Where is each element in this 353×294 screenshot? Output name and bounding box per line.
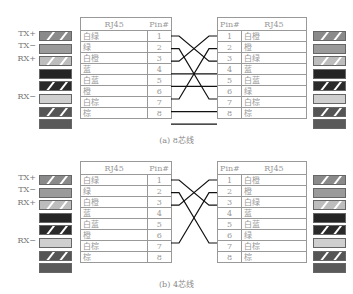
pin-number: 1 bbox=[147, 31, 171, 42]
left-pin-table: RJ45Pin# 白绿1 绿2 白橙3 蓝4 白蓝5 橙6 白棕7 棕8 bbox=[80, 161, 172, 263]
signal-label: TX− bbox=[0, 185, 36, 194]
wire-color: 白绿 bbox=[242, 197, 307, 208]
pin-number: 5 bbox=[147, 219, 171, 230]
wire-color: 白蓝 bbox=[242, 219, 307, 230]
wire-color-swatch bbox=[313, 81, 346, 91]
pin-number: 2 bbox=[218, 186, 242, 197]
wire-color-swatch bbox=[39, 238, 72, 248]
wire-color-swatch bbox=[313, 238, 346, 248]
signal-label: TX+ bbox=[0, 29, 36, 38]
wire-color-swatch bbox=[313, 213, 346, 223]
wire-color-swatch bbox=[313, 188, 346, 198]
pin-number: 3 bbox=[147, 53, 171, 64]
wire-color: 绿 bbox=[242, 86, 307, 97]
right-pin-table: Pin#RJ45 1白橙 2橙 3白绿 4蓝 5白蓝 6绿 7白棕 8棕 bbox=[217, 17, 307, 119]
crossover-wires bbox=[171, 0, 221, 147]
wire-color: 白绿 bbox=[81, 31, 148, 42]
wire-color: 棕 bbox=[242, 252, 307, 263]
wire-color: 白绿 bbox=[81, 175, 148, 186]
wire-color-swatch bbox=[313, 225, 346, 235]
left-pin-table: RJ45Pin# 白绿1 绿2 白橙3 蓝4 白蓝5 橙6 白棕7 棕8 bbox=[80, 17, 172, 119]
wire-color: 白橙 bbox=[81, 53, 148, 64]
wire bbox=[171, 193, 217, 243]
wire-color: 蓝 bbox=[242, 64, 307, 75]
pin-number: 8 bbox=[147, 252, 171, 263]
wire-color: 橙 bbox=[242, 42, 307, 53]
pin-number: 8 bbox=[218, 252, 242, 263]
wire-color: 蓝 bbox=[242, 208, 307, 219]
pin-number: 6 bbox=[147, 86, 171, 97]
wire-color: 白橙 bbox=[81, 197, 148, 208]
wire-color: 白绿 bbox=[242, 53, 307, 64]
header-pin: Pin# bbox=[147, 162, 171, 175]
header-rj45: RJ45 bbox=[242, 18, 307, 31]
wire-color: 绿 bbox=[242, 230, 307, 241]
pin-number: 4 bbox=[147, 64, 171, 75]
wire-color-swatch bbox=[313, 251, 346, 261]
wire-color: 绿 bbox=[81, 186, 148, 197]
diagram-8-core: TX+ TX− RX+ RX− RJ45Pin# 白绿1 绿2 白橙3 蓝4 白… bbox=[0, 0, 353, 147]
pin-number: 5 bbox=[147, 75, 171, 86]
wire-color: 棕 bbox=[81, 252, 148, 263]
wire-color-swatch bbox=[313, 56, 346, 66]
wire-color-swatch bbox=[313, 94, 346, 104]
pin-number: 3 bbox=[147, 197, 171, 208]
wire-color-swatch bbox=[39, 44, 72, 54]
pin-number: 1 bbox=[218, 31, 242, 42]
wire-color: 蓝 bbox=[81, 64, 148, 75]
wire-color-swatch bbox=[39, 56, 72, 66]
wire-color: 白蓝 bbox=[81, 75, 148, 86]
wire-color: 绿 bbox=[81, 42, 148, 53]
wire-color: 白橙 bbox=[242, 31, 307, 42]
header-rj45: RJ45 bbox=[81, 162, 148, 175]
signal-label: RX− bbox=[0, 236, 36, 245]
wire-color-swatch bbox=[313, 119, 346, 129]
wire-color-swatch bbox=[39, 119, 72, 129]
pin-number: 4 bbox=[218, 64, 242, 75]
wire-color-swatch bbox=[39, 200, 72, 210]
signal-label: RX− bbox=[0, 92, 36, 101]
pin-number: 4 bbox=[147, 208, 171, 219]
wire-color-swatch bbox=[39, 94, 72, 104]
pin-number: 2 bbox=[147, 42, 171, 53]
diagram-4-core: TX+ TX− RX+ RX− RJ45Pin# 白绿1 绿2 白橙3 蓝4 白… bbox=[0, 147, 353, 294]
pin-number: 2 bbox=[218, 42, 242, 53]
pin-number: 5 bbox=[218, 219, 242, 230]
wire-color: 白蓝 bbox=[242, 75, 307, 86]
wire-color: 白蓝 bbox=[81, 219, 148, 230]
pin-number: 7 bbox=[218, 97, 242, 108]
wire-color-swatch bbox=[39, 31, 72, 41]
pin-number: 3 bbox=[218, 53, 242, 64]
header-rj45: RJ45 bbox=[81, 18, 148, 31]
right-pin-table: Pin#RJ45 1白橙 2橙 3白绿 4蓝 5白蓝 6绿 7白棕 8棕 bbox=[217, 161, 307, 263]
pin-number: 6 bbox=[218, 230, 242, 241]
wire-color-swatch bbox=[39, 213, 72, 223]
crossover-wires bbox=[171, 147, 221, 294]
signal-label: RX+ bbox=[0, 198, 36, 207]
wire-color: 白棕 bbox=[242, 241, 307, 252]
wire-color-swatch bbox=[313, 31, 346, 41]
pin-number: 1 bbox=[147, 175, 171, 186]
pin-number: 5 bbox=[218, 75, 242, 86]
wire-color-swatch bbox=[313, 200, 346, 210]
pin-number: 6 bbox=[147, 230, 171, 241]
signal-label: RX+ bbox=[0, 54, 36, 63]
wire-color: 橙 bbox=[242, 186, 307, 197]
wire-color-swatch bbox=[39, 107, 72, 117]
header-pin: Pin# bbox=[147, 18, 171, 31]
signal-label: TX+ bbox=[0, 173, 36, 182]
header-pin: Pin# bbox=[218, 18, 242, 31]
wire-color: 棕 bbox=[81, 108, 148, 119]
wire-color-swatch bbox=[39, 251, 72, 261]
wire-color-swatch bbox=[39, 225, 72, 235]
caption: (a) 8芯线 bbox=[0, 134, 353, 145]
header-rj45: RJ45 bbox=[242, 162, 307, 175]
wire-color: 橙 bbox=[81, 230, 148, 241]
pin-number: 1 bbox=[218, 175, 242, 186]
wire-color-swatch bbox=[39, 188, 72, 198]
wire-color-swatch bbox=[313, 69, 346, 79]
pin-number: 7 bbox=[147, 97, 171, 108]
pin-number: 2 bbox=[147, 186, 171, 197]
pin-number: 8 bbox=[147, 108, 171, 119]
wire-color: 白棕 bbox=[81, 241, 148, 252]
